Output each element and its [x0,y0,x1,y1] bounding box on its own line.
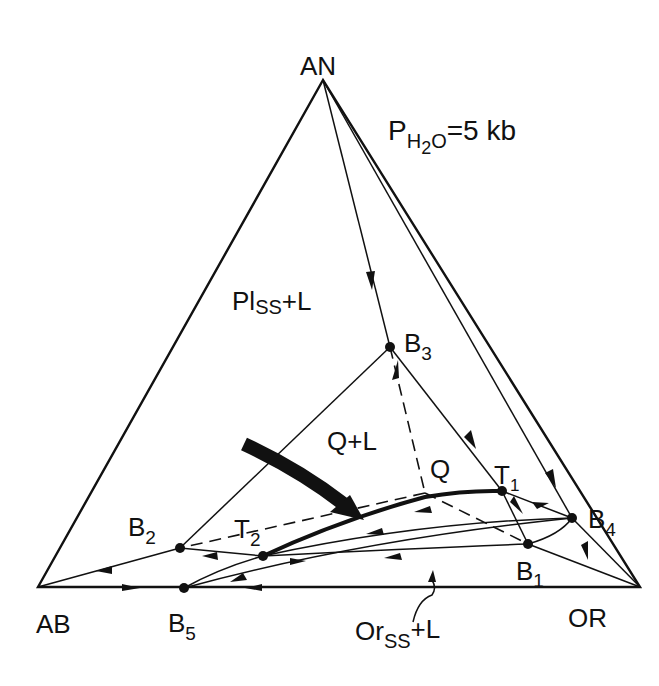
vertex-label-AN: AN [300,51,336,81]
point-B5 [179,583,189,593]
label-B4: B4 [588,504,616,540]
label-B5: B5 [168,608,196,644]
vertex-label-AB: AB [36,609,71,639]
pressure-label: PH2O=5 kb [388,115,516,158]
label-T2: T2 [234,514,260,550]
ternary-diagram: AN AB OR PH2O=5 kb B3 B2 B4 B1 B5 T1 T2 … [0,0,659,686]
field-label-pl: PlSS+L [232,286,311,318]
point-B4 [567,513,577,523]
field-label-or: OrSS+L [355,614,440,652]
label-Q: Q [430,454,450,484]
field-label-q: Q+L [327,426,377,456]
point-B1 [523,539,533,549]
label-B1: B1 [516,556,544,591]
point-B2 [175,543,185,553]
label-B3: B3 [404,328,432,364]
point-B3 [385,342,395,352]
vertex-label-OR: OR [568,603,607,633]
svg-text:PH2O=5 kb: PH2O=5 kb [388,115,516,158]
label-T1: T1 [494,460,519,495]
label-B2: B2 [128,512,156,548]
point-T2 [258,551,268,561]
